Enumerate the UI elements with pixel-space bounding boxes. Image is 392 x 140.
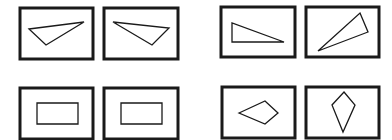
pair-rectangles-identical — [20, 88, 178, 139]
figure-canvas — [0, 0, 392, 140]
pair-kites-rotated — [222, 87, 379, 138]
panel-2 — [104, 8, 178, 59]
panel-3 — [221, 7, 295, 57]
triangle-shape — [318, 13, 368, 51]
panel-7 — [222, 87, 295, 138]
panel-8 — [306, 87, 379, 138]
panel-5 — [20, 88, 93, 139]
panel-1 — [20, 8, 93, 59]
kite-shape — [332, 92, 355, 132]
rectangle-shape — [121, 103, 162, 124]
kite-shape — [239, 101, 278, 124]
triangle-shape — [113, 22, 169, 45]
panel-frame — [20, 88, 93, 139]
right-triangle-shape — [232, 23, 284, 42]
panel-frame — [222, 87, 295, 138]
triangle-shape — [29, 22, 84, 45]
panel-frame — [104, 88, 178, 139]
panel-6 — [104, 88, 178, 139]
pair-triangles-mirrored — [20, 8, 178, 59]
panel-frame — [104, 8, 178, 59]
panel-4 — [306, 7, 379, 57]
rectangle-shape — [37, 103, 78, 124]
pair-triangles-rotated — [221, 7, 379, 57]
panel-frame — [20, 8, 93, 59]
